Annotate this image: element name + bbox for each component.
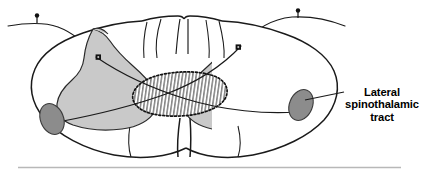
callout-line-2: spinothalamic: [344, 98, 420, 110]
callout-line-3: tract: [344, 111, 420, 123]
receptor-marker-left: [35, 13, 39, 23]
spinal-cord-figure: Lateral spinothalamic tract: [0, 0, 422, 175]
synapse-marker-left: [96, 54, 101, 59]
callout-line-1: Lateral: [344, 86, 420, 98]
synapse-marker-right: [236, 44, 241, 49]
lateral-spinothalamic-tract-label: Lateral spinothalamic tract: [344, 86, 420, 123]
